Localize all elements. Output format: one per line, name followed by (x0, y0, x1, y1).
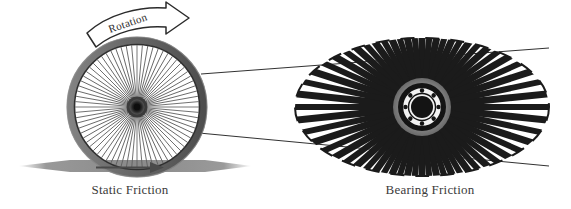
friction-figure: Rotation (0, 0, 571, 209)
caption-static-friction: Static Friction (60, 182, 200, 198)
caption-bearing-friction: Bearing Friction (355, 182, 505, 198)
bearing-hub (393, 78, 451, 136)
bearing-friction-detail (272, 0, 571, 209)
static-friction-wheel (67, 37, 207, 177)
hub-axle (134, 104, 140, 110)
hub-core (411, 96, 433, 118)
figure-canvas: Rotation (0, 0, 571, 209)
